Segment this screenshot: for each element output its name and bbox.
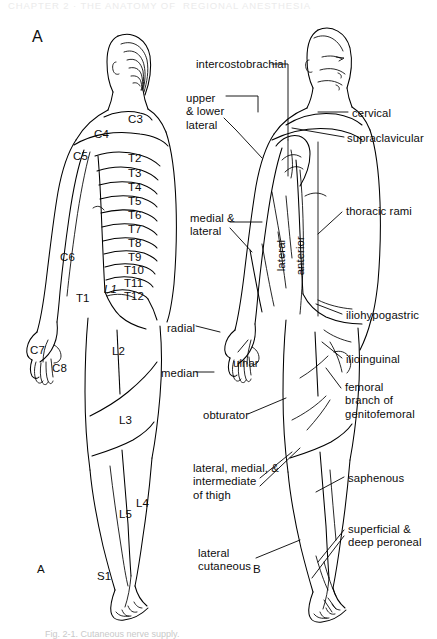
nerve-label-median: median [161,367,199,380]
nerve-label-ilioinguinal: ilioinguinal [346,353,400,366]
nerve-label-intercostobrachial: intercostobrachial [196,58,286,71]
figure-caption: Fig. 2-1. Cutaneous nerve supply. [45,629,179,639]
nerve-label-lateral-medial-intermediate-of-thigh: lateral, medial, & intermediate of thigh [193,462,279,502]
nerve-label-medial-and-lateral: medial & lateral [190,212,235,239]
nerve-label-superficial-and-deep-peroneal: superficial & deep peroneal [348,523,422,550]
dermatome-label-c5: C5 [73,150,88,164]
dermatome-label-t4: T4 [128,181,142,195]
anatomy-figure: CHAPTER 2 · THE ANATOMY OF REGIONAL ANES… [0,0,437,639]
dermatome-label-c3: C3 [128,113,143,127]
nerve-label-lateral-trunk: lateral [275,240,288,271]
panel-a-label-top: A [32,28,43,47]
dermatome-label-t7: T7 [128,223,142,237]
nerve-label-lateral-cutaneous: lateral cutaneous [198,547,251,574]
panel-a-label-bottom: A [37,563,45,577]
dermatome-label-c7: C7 [30,344,45,358]
nerve-label-saphenous: saphenous [348,472,404,485]
dermatome-label-t5: T5 [128,195,142,209]
dermatome-label-t9: T9 [128,251,142,265]
panel-b-label-bottom: B [253,563,261,577]
dermatome-label-t12: T12 [124,290,144,304]
dermatome-label-l3: L3 [119,414,132,428]
dermatome-label-t2: T2 [128,152,142,166]
dermatome-label-l1: L1 [104,283,117,297]
dermatome-label-c6: C6 [60,251,75,265]
nerve-label-iliohypogastric: iliohypogastric [346,309,419,322]
nerve-label-radial: radial [167,322,195,335]
nerve-label-thoracic-rami: thoracic rami [346,205,412,218]
nerve-label-ulnar: ulnar [233,357,259,370]
dermatome-label-t8: T8 [128,237,142,251]
dermatome-label-t10: T10 [124,264,144,278]
dermatome-label-l2: L2 [112,345,125,359]
nerve-label-upper-and-lower-lateral: upper & lower lateral [186,92,224,132]
nerve-label-femoral-branch-of-genitofemoral: femoral branch of genitofemoral [345,381,415,421]
nerve-label-obturator: obturator [203,409,249,422]
dermatome-label-l4: L4 [136,497,149,511]
dermatome-label-t1: T1 [76,292,90,306]
dermatome-label-c4: C4 [94,128,109,142]
dermatome-label-s1: S1 [97,570,111,584]
nerve-label-anterior-trunk: anterior [294,236,307,275]
nerve-label-cervical: cervical [352,107,391,120]
nerve-label-supraclavicular: supraclavicular [347,132,424,145]
dermatome-label-t3: T3 [128,167,142,181]
dermatome-label-t11: T11 [124,277,143,291]
dermatome-label-c8: C8 [52,362,67,376]
dermatome-label-l5: L5 [119,508,132,522]
figure-a-body [27,34,177,620]
dermatome-label-t6: T6 [128,209,142,223]
